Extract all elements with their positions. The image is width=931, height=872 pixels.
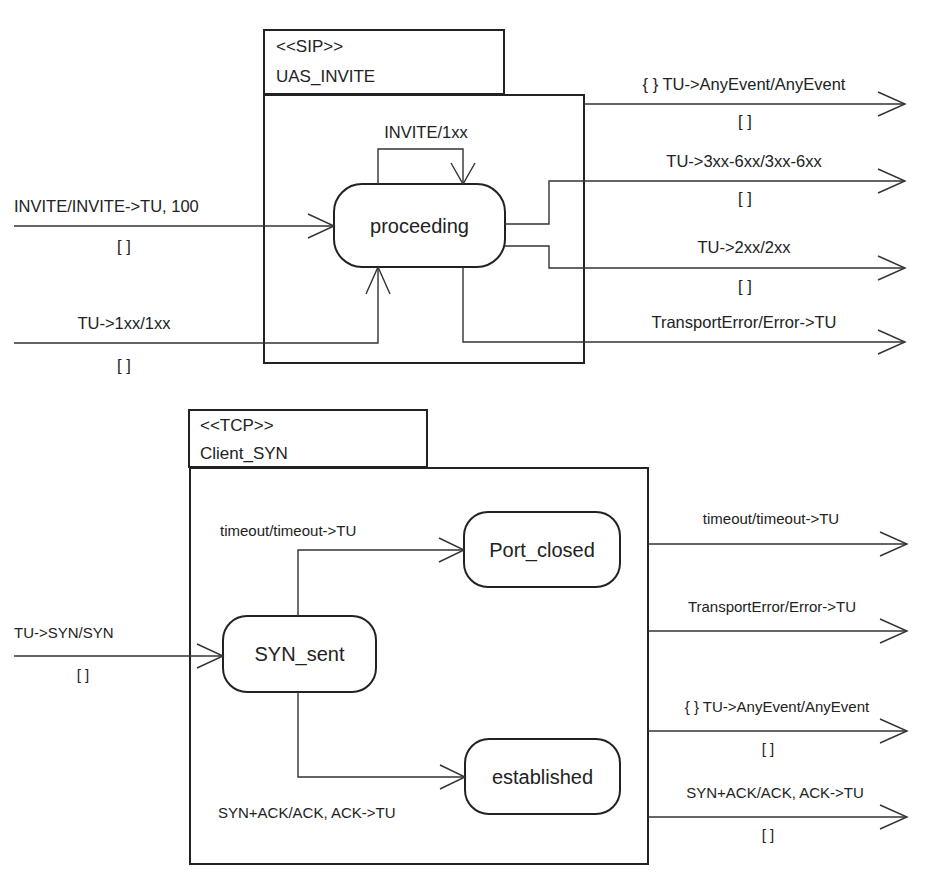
tcp-outgoing-anyevent: { } TU->AnyEvent/AnyEvent [ ] — [648, 698, 907, 757]
tcp-component-name: Client_SYN — [200, 444, 288, 463]
sip-outgoing-3xx-6xx-label: TU->3xx-6xx/3xx-6xx — [666, 152, 822, 170]
sip-outgoing-anyevent-guard: [ ] — [738, 112, 752, 130]
sip-outgoing-anyevent-label: { } TU->AnyEvent/AnyEvent — [643, 75, 846, 93]
tcp-outgoing-transport-error: TransportError/Error->TU — [648, 598, 907, 643]
sip-outgoing-2xx-label: TU->2xx/2xx — [697, 238, 791, 256]
state-syn-sent-label: SYN_sent — [254, 643, 344, 666]
tcp-outgoing-timeout-label: timeout/timeout->TU — [703, 510, 839, 527]
self-loop-label: INVITE/1xx — [384, 123, 468, 141]
tcp-incoming-syn-label: TU->SYN/SYN — [14, 624, 114, 641]
sip-component-name: UAS_INVITE — [276, 67, 375, 86]
state-proceeding-label: proceeding — [370, 215, 469, 237]
tcp-outgoing-anyevent-label: { } TU->AnyEvent/AnyEvent — [685, 698, 870, 715]
sip-component: <<SIP>> UAS_INVITE proceeding INVITE/1xx… — [14, 30, 905, 374]
tcp-outgoing-synack-label: SYN+ACK/ACK, ACK->TU — [686, 784, 864, 801]
state-port-closed-label: Port_closed — [489, 539, 595, 562]
tcp-outgoing-synack-guard: [ ] — [762, 826, 775, 843]
tcp-stereotype: <<TCP>> — [200, 416, 274, 435]
tcp-outgoing-timeout: timeout/timeout->TU — [648, 510, 907, 556]
timeout-transition-label: timeout/timeout->TU — [220, 522, 356, 539]
state-diagram: <<SIP>> UAS_INVITE proceeding INVITE/1xx… — [0, 0, 931, 872]
sip-outgoing-2xx-guard: [ ] — [738, 277, 752, 295]
sip-outgoing-anyevent: { } TU->AnyEvent/AnyEvent [ ] — [584, 75, 905, 130]
tcp-outgoing-synack: SYN+ACK/ACK, ACK->TU [ ] — [648, 784, 907, 843]
sip-incoming-1xx-guard: [ ] — [117, 356, 131, 374]
tcp-component: <<TCP>> Client_SYN SYN_sent Port_closed … — [14, 410, 907, 864]
tcp-outgoing-anyevent-guard: [ ] — [762, 740, 775, 757]
sip-outgoing-3xx-6xx-guard: [ ] — [738, 189, 752, 207]
state-established-label: established — [492, 766, 593, 788]
sip-incoming-invite-label: INVITE/INVITE->TU, 100 — [14, 197, 199, 215]
tcp-incoming-syn-guard: [ ] — [77, 666, 90, 683]
sip-stereotype: <<SIP>> — [276, 37, 343, 56]
sip-outgoing-transport-error-label: TransportError/Error->TU — [651, 313, 836, 331]
tcp-outgoing-transport-error-label: TransportError/Error->TU — [688, 598, 856, 615]
sip-incoming-invite-guard: [ ] — [117, 237, 131, 255]
synack-transition-label: SYN+ACK/ACK, ACK->TU — [218, 804, 396, 821]
sip-incoming-1xx-label: TU->1xx/1xx — [77, 314, 171, 332]
